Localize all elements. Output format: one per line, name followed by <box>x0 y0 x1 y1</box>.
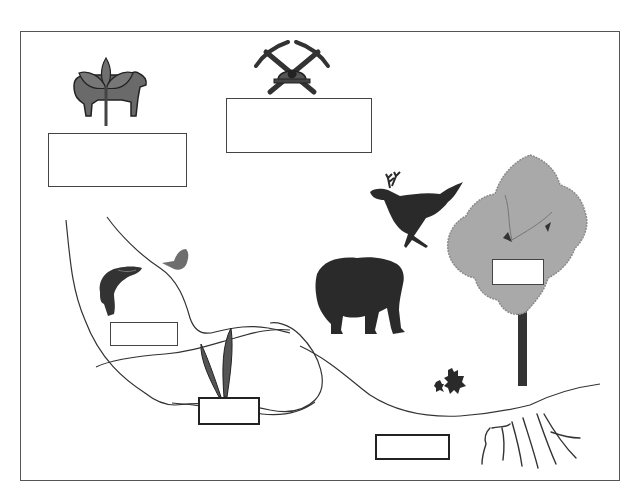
label-box-mining[interactable] <box>226 98 372 153</box>
pickaxe-helmet-icon <box>256 42 328 92</box>
roots-icon <box>482 414 580 468</box>
reed-icon <box>201 328 232 397</box>
ecosystem-scene <box>0 0 642 501</box>
cow-plant-icon <box>74 58 146 126</box>
label-box-agriculture[interactable] <box>48 133 187 187</box>
label-box-soil[interactable] <box>375 434 450 460</box>
butterfly-icon <box>162 249 188 270</box>
label-box-tree[interactable] <box>492 259 544 285</box>
label-box-fish[interactable] <box>110 322 178 346</box>
fish-icon <box>100 267 142 317</box>
bear-icon <box>316 257 406 334</box>
maple-leaf-icon <box>434 368 466 394</box>
label-box-reed[interactable] <box>198 397 260 425</box>
